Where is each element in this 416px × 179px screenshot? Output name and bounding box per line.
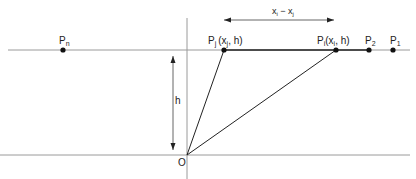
point-pn: [60, 47, 65, 52]
label-pj: Pj(xj, h): [208, 35, 243, 48]
label-origin: O: [178, 157, 186, 168]
line-o-to-pj: [187, 50, 224, 155]
point-pj: [221, 47, 226, 52]
label-pn: Pn: [59, 35, 70, 47]
line-o-to-pi: [187, 50, 336, 155]
point-p2: [366, 47, 371, 52]
point-p1: [390, 47, 395, 52]
label-pi: Pi(xi, h): [317, 35, 350, 47]
point-pi: [333, 47, 338, 52]
label-p1: P1: [390, 35, 401, 47]
geometry-diagram: Pn Pj(xj, h) Pi(xi, h) P2 P1 xi − xj h O: [0, 0, 416, 179]
label-distance: xi − xj: [272, 6, 294, 17]
label-height: h: [175, 95, 181, 106]
label-p2: P2: [365, 35, 376, 47]
